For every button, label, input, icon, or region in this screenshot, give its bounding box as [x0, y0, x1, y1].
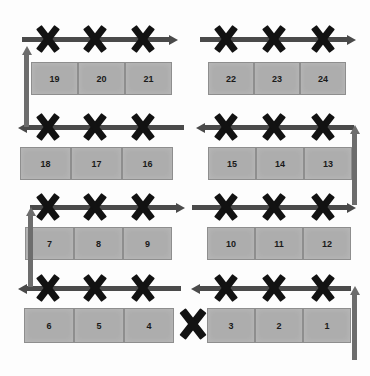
x-marker: [213, 26, 239, 52]
x-marker: [35, 114, 61, 140]
grid-cell[interactable]: 15: [208, 147, 256, 180]
x-marker: [261, 275, 287, 301]
grid-cell-label: 12: [322, 239, 332, 249]
x-marker: [261, 26, 287, 52]
grid-cell[interactable]: 11: [255, 227, 303, 260]
grid-cell[interactable]: 21: [125, 62, 172, 95]
grid-cell-label: 6: [46, 321, 51, 331]
grid-cell[interactable]: 13: [304, 147, 352, 180]
grid-cell[interactable]: 22: [208, 62, 254, 95]
grid-cell-label: 24: [318, 74, 328, 84]
grid-cell[interactable]: 16: [122, 147, 173, 180]
x-marker: [82, 26, 108, 52]
standalone-x-marker: [178, 309, 208, 339]
grid-cell[interactable]: 9: [123, 227, 172, 260]
grid-cell-label: 17: [91, 159, 101, 169]
grid-cell-label: 3: [228, 321, 233, 331]
x-marker: [213, 114, 239, 140]
x-marker: [213, 275, 239, 301]
grid-cell[interactable]: 3: [207, 308, 255, 343]
x-marker: [310, 26, 336, 52]
x-marker: [310, 194, 336, 220]
x-marker: [35, 275, 61, 301]
grid-cell-label: 13: [323, 159, 333, 169]
grid-cell[interactable]: 4: [124, 308, 174, 343]
x-marker: [35, 194, 61, 220]
vertical-connector-right-row4-exit: [352, 294, 357, 360]
grid-cell[interactable]: 17: [71, 147, 122, 180]
grid-cell-label: 20: [96, 74, 106, 84]
grid-cell-label: 22: [226, 74, 236, 84]
grid-cell-label: 23: [272, 74, 282, 84]
x-marker: [310, 114, 336, 140]
grid-cell-label: 7: [47, 239, 52, 249]
grid-cell-label: 5: [96, 321, 101, 331]
grid-cell[interactable]: 5: [74, 308, 124, 343]
grid-cell-label: 11: [274, 239, 284, 249]
grid-cell[interactable]: 14: [256, 147, 304, 180]
grid-cell[interactable]: 24: [300, 62, 346, 95]
x-marker: [130, 114, 156, 140]
x-marker: [261, 114, 287, 140]
grid-cell-label: 1: [324, 321, 329, 331]
x-marker: [310, 275, 336, 301]
x-marker: [261, 194, 287, 220]
x-marker: [35, 26, 61, 52]
grid-cell[interactable]: 19: [31, 62, 78, 95]
x-marker: [130, 26, 156, 52]
grid-cell-label: 15: [227, 159, 237, 169]
grid-cell-label: 21: [143, 74, 153, 84]
grid-cell[interactable]: 1: [303, 308, 351, 343]
grid-cell[interactable]: 12: [303, 227, 351, 260]
vertical-connector-left-row1-row2: [24, 54, 29, 127]
grid-cell-label: 14: [275, 159, 285, 169]
grid-cell[interactable]: 20: [78, 62, 125, 95]
x-marker: [82, 114, 108, 140]
grid-cell-label: 8: [96, 239, 101, 249]
grid-cell-label: 19: [49, 74, 59, 84]
vertical-connector-left-row3-row4: [28, 215, 33, 287]
vertical-connector-right-row2-row3: [352, 133, 357, 205]
x-marker: [213, 194, 239, 220]
grid-cell[interactable]: 23: [254, 62, 300, 95]
x-marker: [82, 194, 108, 220]
grid-cell[interactable]: 6: [24, 308, 74, 343]
x-marker: [130, 194, 156, 220]
grid-cell-label: 10: [226, 239, 236, 249]
diagram-canvas: 19 20 21 22 23 24 18 17 16 15 14 13: [0, 0, 370, 376]
grid-cell-label: 16: [142, 159, 152, 169]
grid-cell-label: 2: [276, 321, 281, 331]
grid-cell[interactable]: 18: [20, 147, 71, 180]
grid-cell-label: 18: [40, 159, 50, 169]
grid-cell[interactable]: 10: [207, 227, 255, 260]
grid-cell-label: 4: [146, 321, 151, 331]
grid-cell-label: 9: [145, 239, 150, 249]
x-marker: [130, 275, 156, 301]
grid-cell[interactable]: 8: [74, 227, 123, 260]
x-marker: [82, 275, 108, 301]
grid-cell[interactable]: 2: [255, 308, 303, 343]
